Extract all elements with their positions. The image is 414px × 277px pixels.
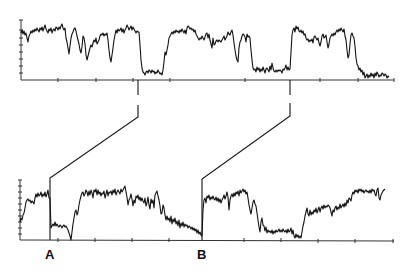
- marker-label-b: B: [197, 248, 206, 261]
- top-trace: [21, 24, 389, 78]
- marker-label-a: A: [45, 248, 54, 261]
- bottom-axes: [18, 180, 394, 243]
- figure-canvas: [0, 0, 414, 277]
- connector-a: [50, 80, 138, 240]
- connector-b: [202, 80, 290, 241]
